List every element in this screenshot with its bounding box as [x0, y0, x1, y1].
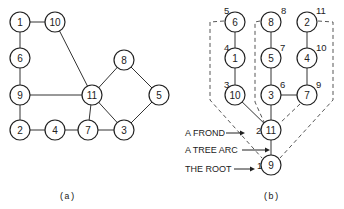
node-label: 8 [121, 55, 127, 66]
node-label: 5 [268, 53, 274, 64]
node-label: 5 [156, 90, 162, 101]
node-label: 11 [87, 90, 98, 101]
node-label: 10 [229, 90, 241, 101]
graph-a-node-5: 5 [149, 85, 169, 105]
dfs-number: 3 [224, 79, 229, 90]
dfs-number: 9 [316, 79, 321, 90]
node-label: 6 [232, 17, 238, 28]
node-label: 6 [17, 53, 23, 64]
dfs-number: 8 [281, 5, 286, 16]
node-label: 3 [268, 90, 274, 101]
dfs-number: 1 [257, 160, 262, 171]
node-label: 9 [268, 160, 274, 171]
graph-a-node-6: 6 [10, 48, 30, 68]
graph-a-node-10: 10 [45, 12, 65, 32]
dfs-number: 6 [280, 79, 285, 90]
arrowhead-icon [250, 167, 255, 172]
graph-b-node-8: 8 [261, 12, 281, 32]
graph-b-node-7: 7 [297, 85, 317, 105]
label-tree-arc: A TREE ARC [185, 145, 238, 155]
graph-b-node-2: 2 [297, 12, 317, 32]
node-label: 8 [268, 17, 274, 28]
node-label: 10 [49, 17, 61, 28]
graph-b-node-9: 9 [261, 155, 281, 175]
graph-b-node-11: 11 [261, 120, 281, 140]
label-a-frond: A FROND [185, 128, 226, 138]
graph-a-node-1: 1 [10, 12, 30, 32]
graph-a-node-3: 3 [114, 120, 134, 140]
node-label: 7 [85, 125, 91, 136]
dfs-number: 2 [256, 125, 261, 136]
node-label: 3 [121, 125, 127, 136]
graph-a-node-11: 11 [82, 85, 102, 105]
graph-b-nodes: 65882111457410103367911291 [224, 5, 327, 175]
graph-a-node-4: 4 [45, 120, 65, 140]
frond-8-to-11 [255, 21, 264, 122]
dfs-number: 7 [280, 42, 285, 53]
graph-b-node-4: 4 [297, 48, 317, 68]
node-label: 4 [52, 125, 58, 136]
caption-b: (b) [263, 192, 279, 202]
graph-a-edge-10-11 [55, 22, 92, 95]
node-label: 11 [266, 125, 277, 136]
node-label: 2 [304, 17, 310, 28]
arrowhead-icon [240, 131, 245, 136]
dfs-number: 11 [316, 5, 326, 16]
node-label: 1 [17, 17, 23, 28]
dfs-number: 5 [224, 5, 229, 16]
node-label: 7 [304, 90, 310, 101]
graph-a-node-8: 8 [114, 50, 134, 70]
node-label: 2 [17, 125, 23, 136]
frond-7-to-11 [280, 104, 300, 123]
node-label: 4 [304, 53, 310, 64]
label-the-root: THE ROOT [185, 164, 232, 174]
figure-canvas: 1106911852473 65882111457410103367911291… [0, 0, 344, 209]
caption-a: (a) [59, 192, 75, 202]
graph-a-node-2: 2 [10, 120, 30, 140]
node-label: 1 [232, 53, 238, 64]
arrowhead-icon [265, 148, 270, 153]
graph-b-node-3: 3 [261, 85, 281, 105]
dfs-number: 4 [224, 42, 229, 53]
graph-a-node-9: 9 [10, 85, 30, 105]
graph-a-node-7: 7 [78, 120, 98, 140]
graph-a-edges [20, 22, 159, 130]
graph-b-node-5: 5 [261, 48, 281, 68]
node-label: 9 [17, 90, 23, 101]
graph-a-nodes: 1106911852473 [10, 12, 169, 140]
dfs-number: 10 [316, 42, 327, 53]
